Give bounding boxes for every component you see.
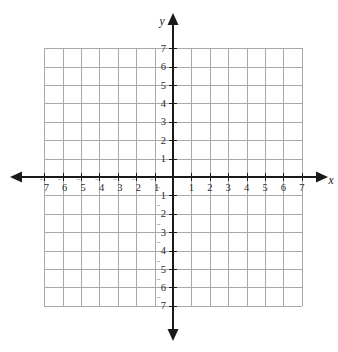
canvas-background	[0, 0, 338, 352]
x-axis-tick-label: 7	[299, 182, 304, 193]
x-axis-tick-label: 6	[281, 182, 286, 193]
y-axis-label: y	[158, 15, 165, 28]
y-axis-tick-label: 7	[161, 43, 166, 54]
x-axis-tick-label: 3	[226, 182, 231, 193]
y-axis-tick-label: 2	[161, 135, 166, 146]
y-axis-tick-label: 5	[161, 80, 166, 91]
coordinate-grid-svg: ⁻7⁻6⁻5⁻4⁻3⁻2⁻11234567 ⁻7⁻6⁻5⁻4⁻3⁻2⁻11234…	[0, 0, 338, 352]
x-axis-tick-label: 1	[189, 182, 194, 193]
x-axis-label: x	[327, 174, 334, 186]
y-axis-tick-label: 3	[161, 116, 166, 127]
x-axis-tick-label: 2	[207, 182, 212, 193]
coordinate-plane: ⁻7⁻6⁻5⁻4⁻3⁻2⁻11234567 ⁻7⁻6⁻5⁻4⁻3⁻2⁻11234…	[0, 0, 338, 352]
y-axis-tick-label: 1	[161, 153, 166, 164]
y-axis-tick-label: 4	[161, 98, 167, 109]
x-axis-tick-label: 5	[262, 182, 267, 193]
y-axis-tick-label: 6	[161, 61, 166, 72]
x-axis-tick-label: 4	[244, 182, 250, 193]
